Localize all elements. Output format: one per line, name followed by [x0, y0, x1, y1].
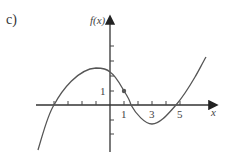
- x-axis-label: x: [210, 106, 216, 118]
- x-tick-label-1: 1: [121, 108, 127, 120]
- y-axis-label: f(x): [90, 14, 106, 27]
- marked-point: [122, 89, 126, 93]
- function-curve: [38, 57, 206, 150]
- y-tick-label-1: 1: [100, 85, 106, 97]
- x-tick-label-3: 3: [149, 108, 155, 120]
- x-tick-label-5: 5: [177, 108, 183, 120]
- function-graph: 1 3 5 1 f(x) x: [0, 0, 230, 162]
